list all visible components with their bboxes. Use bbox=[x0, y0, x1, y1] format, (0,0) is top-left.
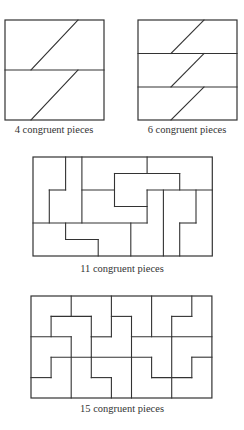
figure-15-pieces bbox=[31, 296, 212, 398]
caption-6-pieces: 6 congruent pieces bbox=[148, 124, 227, 135]
cut-line bbox=[31, 20, 78, 70]
caption-4-pieces: 4 congruent pieces bbox=[15, 124, 94, 135]
cut-line bbox=[171, 20, 204, 54]
caption-15-pieces: 15 congruent pieces bbox=[80, 403, 164, 414]
tiling-diagram bbox=[0, 0, 244, 430]
cut-line bbox=[171, 87, 204, 120]
figure-6-pieces bbox=[138, 20, 237, 120]
figure-11-pieces bbox=[33, 157, 212, 256]
caption-11-pieces: 11 congruent pieces bbox=[80, 263, 164, 274]
cut-line bbox=[31, 70, 78, 120]
outer-rectangle bbox=[31, 296, 212, 398]
cut-line bbox=[171, 54, 204, 88]
figure-4-pieces bbox=[5, 20, 104, 120]
